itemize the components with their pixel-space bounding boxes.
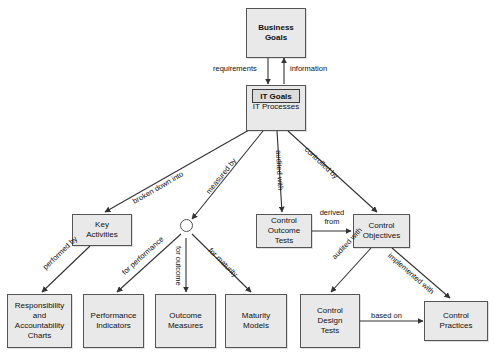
node-outcome-measures-label: OutcomeMeasures xyxy=(166,311,205,331)
node-responsibility-and-accountability-charts[interactable]: ResponsibilityandAccountabilityCharts xyxy=(7,294,72,348)
node-performance-indicators-label: PerformanceIndicators xyxy=(89,311,139,331)
node-it-goals-label: IT Goals xyxy=(260,92,292,101)
edge-implemented-with xyxy=(392,248,450,298)
edge-label-for-outcome: for outcome xyxy=(174,246,183,286)
node-control-practices[interactable]: ControlPractices xyxy=(424,301,488,341)
node-business-goals[interactable]: BusinessGoals xyxy=(246,8,306,58)
node-it-processes-label: IT Processes xyxy=(251,102,302,112)
node-key-activities[interactable]: KeyActivities xyxy=(72,214,132,246)
node-control-outcome-tests[interactable]: ControlOutcomeTests xyxy=(256,214,312,248)
metrics-junction-node[interactable] xyxy=(180,219,193,232)
node-control-objectives-label: ControlObjectives xyxy=(361,221,402,241)
node-maturity-models[interactable]: MaturityModels xyxy=(225,294,287,348)
edge-label-information: information xyxy=(290,64,327,73)
node-business-goals-label: BusinessGoals xyxy=(256,23,296,43)
node-performance-indicators[interactable]: PerformanceIndicators xyxy=(83,294,144,348)
node-it-goals[interactable]: IT Goals xyxy=(252,89,300,103)
node-control-outcome-tests-label: ControlOutcomeTests xyxy=(266,216,302,246)
diagram-canvas: BusinessGoals IT Processes IT Goals KeyA… xyxy=(0,0,495,355)
node-key-activities-label: KeyActivities xyxy=(84,220,120,240)
node-maturity-models-label: MaturityModels xyxy=(240,311,272,331)
node-control-design-tests[interactable]: ControlDesignTests xyxy=(300,294,360,348)
node-control-practices-label: ControlPractices xyxy=(438,311,475,331)
edge-label-based-on: based on xyxy=(371,311,402,320)
edge-label-requirements: requirements xyxy=(213,64,257,73)
node-responsibility-and-accountability-charts-label: ResponsibilityandAccountabilityCharts xyxy=(13,301,66,341)
node-control-design-tests-label: ControlDesignTests xyxy=(315,306,345,336)
edge-label-derived-from: derivedfrom xyxy=(312,208,352,226)
node-outcome-measures[interactable]: OutcomeMeasures xyxy=(155,294,216,348)
